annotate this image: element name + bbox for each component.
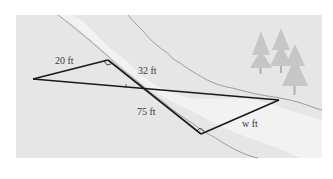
label-32ft: 32 ft: [138, 65, 157, 76]
river-triangle-diagram: 20 ft 32 ft 75 ft w ft: [0, 0, 333, 179]
label-w-ft: w ft: [242, 118, 258, 129]
label-20ft: 20 ft: [55, 55, 74, 66]
label-75ft: 75 ft: [137, 106, 156, 117]
